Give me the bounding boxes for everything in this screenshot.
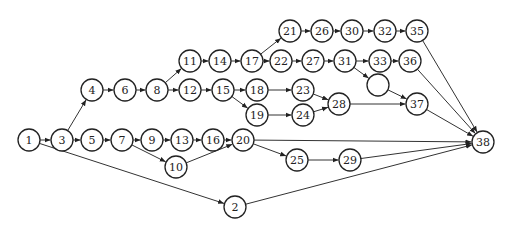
node-label: 18 <box>250 84 264 97</box>
node-31: 31 <box>334 50 356 72</box>
node-15: 15 <box>212 79 234 101</box>
node-20: 20 <box>232 129 254 151</box>
edge-23-28 <box>313 94 328 100</box>
node-29: 29 <box>339 149 361 171</box>
network-diagram: 1357913162010246811141712151819232428212… <box>0 0 506 230</box>
node-16: 16 <box>202 129 224 151</box>
node-label: 29 <box>343 154 357 167</box>
node-1: 1 <box>18 129 40 151</box>
node-label: 25 <box>290 154 304 167</box>
node-circle <box>367 74 389 96</box>
node-label: 19 <box>250 109 264 122</box>
node-30: 30 <box>341 20 363 42</box>
node-33: 33 <box>369 50 391 72</box>
node-blank <box>367 74 389 96</box>
node-13: 13 <box>171 129 193 151</box>
node-label: 10 <box>169 161 183 174</box>
node-14: 14 <box>209 50 231 72</box>
node-label: 8 <box>154 84 161 97</box>
node-24: 24 <box>292 104 314 126</box>
node-6: 6 <box>114 79 136 101</box>
node-17: 17 <box>241 50 263 72</box>
node-label: 28 <box>332 98 346 111</box>
node-11: 11 <box>179 50 201 72</box>
node-label: 20 <box>236 134 250 147</box>
edge-3-4 <box>68 100 86 131</box>
node-label: 24 <box>296 109 310 122</box>
node-18: 18 <box>246 79 268 101</box>
node-9: 9 <box>141 129 163 151</box>
node-23: 23 <box>292 79 314 101</box>
node-label: 23 <box>296 84 310 97</box>
edge-15-19 <box>232 97 248 109</box>
node-26: 26 <box>311 20 333 42</box>
node-label: 26 <box>315 25 329 38</box>
edge-1-2 <box>39 143 224 203</box>
node-28: 28 <box>328 93 350 115</box>
node-label: 5 <box>89 134 96 147</box>
edge-20-25 <box>253 144 286 156</box>
node-7: 7 <box>111 129 133 151</box>
node-label: 4 <box>89 84 96 97</box>
edge-31-blank <box>354 67 369 78</box>
node-label: 27 <box>306 55 320 68</box>
node-label: 2 <box>232 201 239 214</box>
node-label: 16 <box>206 134 220 147</box>
node-21: 21 <box>279 20 301 42</box>
node-label: 9 <box>149 134 156 147</box>
node-3: 3 <box>51 129 73 151</box>
node-label: 6 <box>122 84 129 97</box>
edge-29-38 <box>361 144 472 159</box>
node-12: 12 <box>179 79 201 101</box>
node-label: 14 <box>213 55 227 68</box>
node-38: 38 <box>472 131 494 153</box>
node-4: 4 <box>81 79 103 101</box>
node-5: 5 <box>81 129 103 151</box>
node-label: 37 <box>410 98 424 111</box>
node-label: 22 <box>274 55 288 68</box>
node-label: 15 <box>216 84 230 97</box>
node-label: 21 <box>283 25 297 38</box>
node-10: 10 <box>165 156 187 178</box>
node-25: 25 <box>286 149 308 171</box>
node-8: 8 <box>146 79 168 101</box>
node-label: 17 <box>245 55 259 68</box>
node-label: 32 <box>378 25 392 38</box>
node-27: 27 <box>302 50 324 72</box>
node-label: 36 <box>403 55 417 68</box>
edge-20-38 <box>254 140 472 142</box>
node-label: 12 <box>183 84 197 97</box>
node-label: 11 <box>183 55 197 68</box>
node-35: 35 <box>406 20 428 42</box>
node-2: 2 <box>224 196 246 218</box>
edge-8-11 <box>165 69 181 83</box>
node-22: 22 <box>270 50 292 72</box>
nodes-layer: 1357913162010246811141712151819232428212… <box>18 20 494 218</box>
node-32: 32 <box>374 20 396 42</box>
node-label: 7 <box>119 134 126 147</box>
node-36: 36 <box>399 50 421 72</box>
edge-35-38 <box>423 40 478 132</box>
node-37: 37 <box>406 93 428 115</box>
node-label: 35 <box>410 25 424 38</box>
node-19: 19 <box>246 104 268 126</box>
node-label: 33 <box>373 55 387 68</box>
edge-blank-37 <box>388 90 407 99</box>
node-label: 1 <box>26 134 33 147</box>
node-label: 31 <box>338 55 352 68</box>
edge-24-28 <box>314 107 328 111</box>
node-label: 13 <box>175 134 189 147</box>
node-label: 30 <box>345 25 359 38</box>
node-label: 38 <box>476 136 490 149</box>
node-label: 3 <box>59 134 66 147</box>
